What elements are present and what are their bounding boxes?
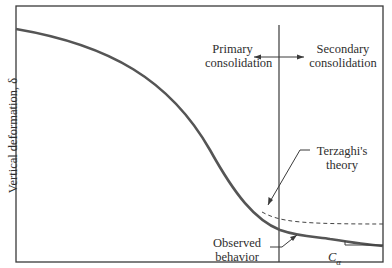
secondary-label: Secondary consolidation <box>307 42 379 70</box>
primary-line1: Primary <box>205 42 260 56</box>
c-alpha-sub: α <box>336 257 341 267</box>
secondary-line2: consolidation <box>307 56 379 70</box>
terzaghi-label: Terzaghi's theory <box>312 144 372 172</box>
observed-line2: behavior <box>206 250 268 264</box>
terzaghi-line2: theory <box>312 158 372 172</box>
primary-line2: consolidation <box>205 56 260 70</box>
c-alpha-label: Cα <box>328 250 341 268</box>
primary-label: Primary consolidation <box>205 42 260 70</box>
secondary-line1: Secondary <box>307 42 379 56</box>
arrow-right-icon <box>297 55 304 60</box>
terzaghi-leader <box>268 150 310 205</box>
observed-label: Observed behavior <box>206 236 268 264</box>
terzaghi-curve <box>262 212 383 224</box>
diagram-canvas <box>0 0 392 268</box>
observed-line1: Observed <box>206 236 268 250</box>
terzaghi-line1: Terzaghi's <box>312 144 372 158</box>
y-axis-label: Vertical deformation, δ <box>6 61 21 211</box>
